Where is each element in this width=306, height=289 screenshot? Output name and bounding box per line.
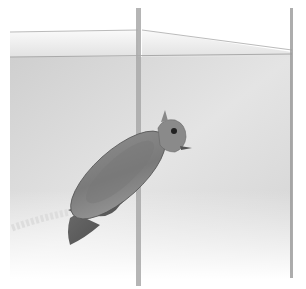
bird-drawing — [0, 0, 306, 289]
wall-top-band — [10, 30, 292, 57]
bird-eye — [171, 128, 177, 134]
pole-right — [290, 8, 293, 278]
drawing-canvas — [0, 0, 306, 289]
